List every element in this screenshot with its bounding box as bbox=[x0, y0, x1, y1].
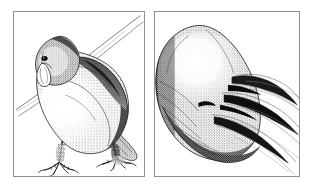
panel-left bbox=[13, 11, 145, 177]
foot-detail-illustration bbox=[155, 12, 299, 176]
bird-on-perch-illustration bbox=[14, 12, 144, 176]
panel-right bbox=[154, 11, 300, 177]
figure-root bbox=[0, 0, 312, 188]
bird-eye bbox=[41, 56, 47, 61]
bird-foot-front-shading bbox=[56, 143, 65, 163]
